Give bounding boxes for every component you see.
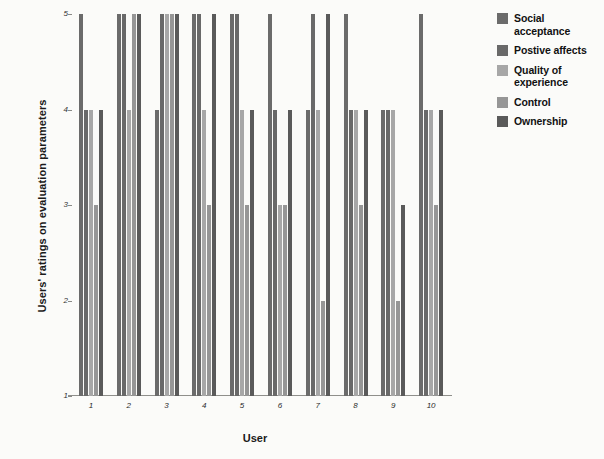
- bar-fill: [306, 110, 310, 397]
- bar: [99, 110, 103, 397]
- bar-fill: [434, 205, 438, 396]
- bar-fill: [316, 110, 320, 397]
- legend-swatch-icon: [497, 97, 508, 108]
- bar-group: 1: [79, 14, 103, 396]
- x-axis-tick-label: 8: [353, 401, 357, 410]
- bar: [434, 205, 438, 396]
- bar-group: 8: [344, 14, 368, 396]
- x-axis-tick-label: 1: [89, 401, 93, 410]
- bar: [165, 14, 169, 396]
- bar-fill: [84, 110, 88, 397]
- bar: [212, 14, 216, 396]
- bar: [288, 110, 292, 397]
- bar-fill: [89, 110, 93, 397]
- bar: [207, 205, 211, 396]
- y-axis-tick-label: 4: [54, 105, 68, 114]
- bar-fill: [344, 14, 348, 396]
- bar-fill: [288, 110, 292, 397]
- bar-group: 2: [117, 14, 141, 396]
- bar-fill: [268, 14, 272, 396]
- bar: [132, 14, 136, 396]
- y-axis-tick-mark: [68, 110, 72, 111]
- bar-fill: [349, 110, 353, 397]
- bar-fill: [354, 110, 358, 397]
- bar: [359, 205, 363, 396]
- bar-fill: [273, 110, 277, 397]
- bar: [424, 110, 428, 397]
- bar: [396, 301, 400, 397]
- x-axis-tick-label: 3: [164, 401, 168, 410]
- bar-group: 10: [419, 14, 443, 396]
- y-axis-tick-mark: [68, 205, 72, 206]
- bar-fill: [240, 110, 244, 397]
- bar: [137, 14, 141, 396]
- bar-fill: [137, 14, 141, 396]
- bar-fill: [127, 110, 131, 397]
- bar: [170, 14, 174, 396]
- legend-item-label: Quality of experience: [514, 64, 601, 89]
- bar-fill: [160, 14, 164, 396]
- bar-fill: [250, 110, 254, 397]
- bar-fill: [165, 14, 169, 396]
- bar-fill: [439, 110, 443, 397]
- bar: [321, 301, 325, 397]
- bar: [349, 110, 353, 397]
- bar-group: 7: [306, 14, 330, 396]
- bar: [160, 14, 164, 396]
- bar: [278, 205, 282, 396]
- legend-swatch-icon: [497, 13, 508, 24]
- legend-swatch-icon: [497, 65, 508, 76]
- bar-fill: [419, 14, 423, 396]
- bar: [245, 205, 249, 396]
- bar-fill: [94, 205, 98, 396]
- bar-fill: [391, 110, 395, 397]
- bar-fill: [396, 301, 400, 397]
- bar-fill: [175, 14, 179, 396]
- bar-group: 4: [192, 14, 216, 396]
- legend-item-label: Social acceptance: [514, 12, 601, 37]
- x-axis-tick-label: 7: [315, 401, 319, 410]
- bar: [316, 110, 320, 397]
- bar-fill: [202, 110, 206, 397]
- bar: [127, 110, 131, 397]
- y-axis-tick-label: 2: [54, 296, 68, 305]
- bar: [79, 14, 83, 396]
- bar-fill: [359, 205, 363, 396]
- bar: [306, 110, 310, 397]
- bar: [391, 110, 395, 397]
- bar-fill: [283, 205, 287, 396]
- bar: [155, 110, 159, 397]
- bar-fill: [212, 14, 216, 396]
- bar-fill: [79, 14, 83, 396]
- bar-fill: [401, 205, 405, 396]
- bar-fill: [321, 301, 325, 397]
- legend-item-label: Control: [514, 96, 551, 109]
- bar-group: 5: [230, 14, 254, 396]
- bar: [192, 14, 196, 396]
- bar: [197, 14, 201, 396]
- bar-fill: [235, 14, 239, 396]
- plot-area: 12345 12345678910: [72, 14, 450, 396]
- bar: [364, 110, 368, 397]
- bar-chart-figure: Users' ratings on evaluation parameters …: [0, 0, 604, 459]
- x-axis-tick-label: 9: [391, 401, 395, 410]
- bar: [273, 110, 277, 397]
- bar-fill: [245, 205, 249, 396]
- legend-item: Ownership: [497, 115, 601, 128]
- bar-fill: [132, 14, 136, 396]
- x-axis-tick-label: 4: [202, 401, 206, 410]
- bar-fill: [197, 14, 201, 396]
- bar: [419, 14, 423, 396]
- bar: [326, 14, 330, 396]
- chart-legend: Social acceptancePostive affectsQuality …: [497, 12, 601, 135]
- bar-fill: [122, 14, 126, 396]
- bar-group: 9: [381, 14, 405, 396]
- bar: [386, 110, 390, 397]
- y-axis-tick-label: 3: [54, 200, 68, 209]
- y-axis-tick-mark: [68, 301, 72, 302]
- x-axis-tick-label: 2: [126, 401, 130, 410]
- bar-fill: [170, 14, 174, 396]
- y-axis-tick-label: 5: [54, 9, 68, 18]
- bar-fill: [381, 110, 385, 397]
- legend-item-label: Ownership: [514, 115, 567, 128]
